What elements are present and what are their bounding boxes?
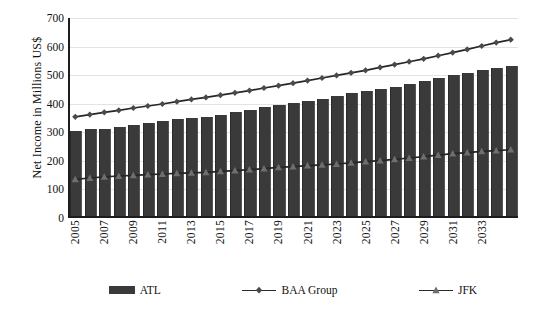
- marker-diamond: [493, 39, 499, 45]
- legend-item[interactable]: ATL: [109, 284, 161, 296]
- marker-diamond: [479, 43, 485, 49]
- x-axis-tick-label: 2031: [447, 220, 459, 244]
- marker-diamond: [450, 49, 456, 55]
- x-axis-tick-label: 2029: [418, 220, 430, 244]
- y-axis-line: [68, 18, 70, 218]
- chart-legend: ATLBAA GroupJFK: [68, 278, 518, 302]
- marker-diamond: [421, 56, 427, 62]
- marker-diamond: [406, 59, 412, 65]
- y-axis-tick-label: 700: [24, 12, 64, 24]
- marker-diamond: [348, 70, 354, 76]
- marker-diamond: [246, 87, 252, 93]
- marker-diamond: [377, 64, 383, 70]
- marker-diamond: [362, 67, 368, 73]
- y-axis-tick-label: 500: [24, 69, 64, 81]
- plot-area: [68, 18, 518, 218]
- x-axis-tick-label: 2023: [331, 220, 343, 244]
- x-axis-tick-label: 2033: [476, 220, 488, 244]
- y-axis-tick-label: 0: [24, 212, 64, 224]
- marker-diamond: [159, 101, 165, 107]
- legend-label: BAA Group: [281, 284, 337, 296]
- y-axis-tick-labels: 0100200300400500600700: [18, 18, 64, 218]
- marker-diamond: [145, 103, 151, 109]
- x-axis-line: [68, 216, 518, 218]
- x-axis-tick-labels: 2005200720092011201320152017201920212023…: [68, 220, 518, 276]
- legend-line-diamond-icon: [242, 285, 276, 295]
- x-axis-tick-label: 2011: [156, 220, 168, 244]
- y-axis-tick-label: 400: [24, 98, 64, 110]
- marker-diamond: [508, 37, 514, 43]
- y-axis-tick-label: 600: [24, 41, 64, 53]
- x-axis-tick-label: 2013: [185, 220, 197, 244]
- x-axis-tick-label: 2005: [69, 220, 81, 244]
- marker-diamond: [275, 83, 281, 89]
- legend-line-triangle-icon: [419, 285, 453, 295]
- y-axis-tick-label: 200: [24, 155, 64, 167]
- marker-diamond: [217, 92, 223, 98]
- legend-item[interactable]: JFK: [419, 284, 477, 296]
- legend-item[interactable]: BAA Group: [242, 284, 337, 296]
- marker-diamond: [174, 99, 180, 105]
- marker-diamond: [87, 111, 93, 117]
- legend-bar-swatch-icon: [109, 286, 135, 294]
- marker-diamond: [392, 61, 398, 67]
- legend-label: JFK: [458, 284, 477, 296]
- x-axis-tick-label: 2007: [98, 220, 110, 244]
- marker-diamond: [203, 94, 209, 100]
- marker-diamond: [130, 105, 136, 111]
- legend-label: ATL: [140, 284, 161, 296]
- marker-diamond: [232, 90, 238, 96]
- x-axis-tick-label: 2009: [127, 220, 139, 244]
- x-axis-tick-label: 2015: [214, 220, 226, 244]
- marker-diamond: [116, 107, 122, 113]
- marker-diamond: [188, 96, 194, 102]
- line-baa-group: [75, 40, 510, 117]
- marker-diamond: [464, 46, 470, 52]
- marker-diamond: [319, 75, 325, 81]
- x-axis-tick-label: 2021: [302, 220, 314, 244]
- chart-container: Net Income in Millions US$ 0100200300400…: [0, 0, 537, 316]
- x-axis-tick-label: 2027: [389, 220, 401, 244]
- x-axis-tick-label: 2017: [243, 220, 255, 244]
- line-series-layer: [68, 18, 518, 218]
- x-axis-tick-label: 2025: [360, 220, 372, 244]
- y-axis-tick-label: 300: [24, 126, 64, 138]
- marker-diamond: [304, 77, 310, 83]
- x-axis-tick-label: 2019: [272, 220, 284, 244]
- marker-diamond: [290, 80, 296, 86]
- marker-diamond: [435, 53, 441, 59]
- marker-diamond: [101, 109, 107, 115]
- marker-diamond: [333, 72, 339, 78]
- marker-diamond: [261, 85, 267, 91]
- marker-diamond: [72, 114, 78, 120]
- y-axis-tick-label: 100: [24, 183, 64, 195]
